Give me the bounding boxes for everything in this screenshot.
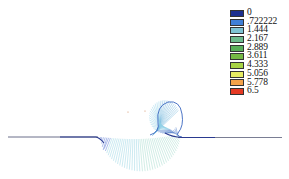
legend-swatch: [230, 53, 244, 60]
legend-swatch: [230, 19, 244, 26]
vector-arrow: [161, 137, 171, 159]
surface-blue-right: [165, 133, 215, 138]
legend-swatch: [230, 62, 244, 69]
vector-arrow: [157, 138, 166, 163]
vector-arrow: [132, 139, 133, 170]
legend-swatch: [230, 36, 244, 43]
vector-arrow: [129, 139, 131, 170]
vector-arrow: [164, 137, 173, 155]
vector-arrow: [159, 138, 169, 161]
legend-label: 6.5: [247, 86, 259, 95]
vector-arrow: [166, 137, 175, 153]
legend-swatch: [230, 10, 244, 17]
legend-entry: 6.5: [230, 87, 289, 96]
vector-arrow: [169, 136, 177, 148]
color-legend: 0.7222221.4442.1672.8893.6114.3335.0565.…: [230, 9, 289, 96]
vector-arrow: [138, 139, 140, 171]
spray-dot: [127, 111, 128, 112]
vector-arrow: [136, 139, 137, 171]
vector-arrow: [122, 139, 126, 167]
legend-swatch: [230, 27, 244, 34]
legend-entry: 5.778: [230, 79, 289, 88]
surface-blue-left: [60, 137, 104, 143]
legend-swatch: [230, 88, 244, 95]
legend-swatch: [230, 71, 244, 78]
vector-arrow: [162, 137, 172, 157]
spray-dot: [144, 110, 145, 111]
vector-arrow: [120, 139, 125, 166]
legend-swatch: [230, 45, 244, 52]
legend-swatch: [230, 79, 244, 86]
vector-arrow: [100, 137, 101, 138]
vector-arrow: [143, 139, 147, 171]
vector-arrow: [155, 138, 164, 164]
